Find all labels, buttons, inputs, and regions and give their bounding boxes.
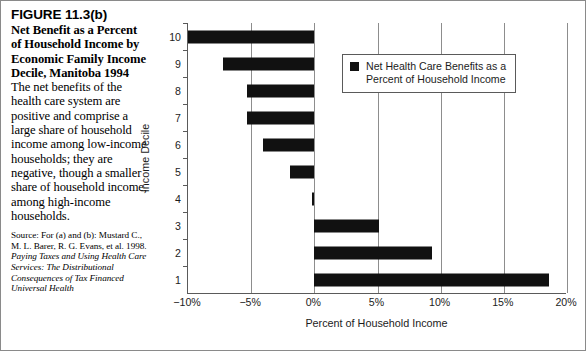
y-tick-label: 7 [175, 112, 181, 124]
bar [290, 165, 314, 178]
y-axis-tick [183, 131, 188, 132]
y-tick-label: 3 [175, 220, 181, 232]
y-axis-tick [183, 158, 188, 159]
figure-number: FIGURE 11.3(b) [11, 7, 147, 22]
chart-legend: Net Health Care Benefits as a Percent of… [342, 54, 516, 93]
bar [314, 246, 431, 259]
y-axis-tick [183, 23, 188, 24]
bar [312, 192, 315, 205]
bar [263, 138, 315, 151]
bar [223, 57, 314, 70]
x-tick-label: 0% [306, 296, 321, 308]
bar [314, 219, 378, 232]
x-tick-label: 10% [429, 296, 450, 308]
source-prefix: Source: For (a) and (b): Mustard C., M. … [11, 230, 147, 251]
source-italic-title: Paying Taxes and Using Health Care Servi… [11, 251, 146, 293]
legend-swatch-icon [350, 62, 359, 71]
y-tick-label: 1 [175, 274, 181, 286]
caption-column: FIGURE 11.3(b) Net Benefit as a Percent … [11, 7, 147, 345]
y-axis-tick [183, 50, 188, 51]
figure-title: Net Benefit as a Percent of Household In… [11, 23, 147, 80]
y-axis-tick [183, 212, 188, 213]
y-axis-tick [183, 104, 188, 105]
figure-body-text: The net benefits of the health care syst… [11, 80, 147, 223]
x-tick-label: 5% [369, 296, 384, 308]
y-tick-label: 10 [169, 31, 181, 43]
y-tick-label: 2 [175, 247, 181, 259]
y-tick-label: 6 [175, 139, 181, 151]
y-axis-tick [183, 185, 188, 186]
legend-label: Net Health Care Benefits as a Percent of… [366, 60, 506, 86]
bar [314, 273, 549, 286]
y-axis-tick [183, 266, 188, 267]
y-tick-label: 5 [175, 166, 181, 178]
y-axis-tick [183, 239, 188, 240]
x-tick-label: 15% [492, 296, 513, 308]
gridline-x [567, 23, 568, 293]
y-tick-label: 4 [175, 193, 181, 205]
figure-source-note: Source: For (a) and (b): Mustard C., M. … [11, 230, 147, 294]
bar [188, 30, 314, 43]
y-axis-tick [183, 77, 188, 78]
x-tick-label: −10% [173, 296, 200, 308]
bar [247, 111, 314, 124]
x-axis-line [187, 293, 566, 294]
x-axis-title: Percent of Household Income [187, 317, 566, 329]
figure-panel: FIGURE 11.3(b) Net Benefit as a Percent … [0, 0, 586, 351]
x-tick-label: 20% [555, 296, 576, 308]
y-tick-label: 9 [175, 58, 181, 70]
y-tick-label: 8 [175, 85, 181, 97]
x-tick-label: −5% [239, 296, 261, 308]
bar [247, 84, 314, 97]
bar-chart: Income Decile 12345678910 Percent of Hou… [147, 1, 586, 351]
y-axis-title: Income Decile [139, 124, 151, 192]
